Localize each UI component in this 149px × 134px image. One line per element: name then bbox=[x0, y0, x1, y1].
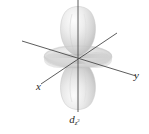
axis-label-x: x bbox=[36, 81, 41, 92]
orbital-figure: x y dz2 bbox=[0, 0, 149, 134]
orbital-caption: dz2 bbox=[0, 114, 149, 127]
axis-label-y: y bbox=[134, 70, 139, 81]
caption-exponent: 2 bbox=[77, 118, 80, 123]
